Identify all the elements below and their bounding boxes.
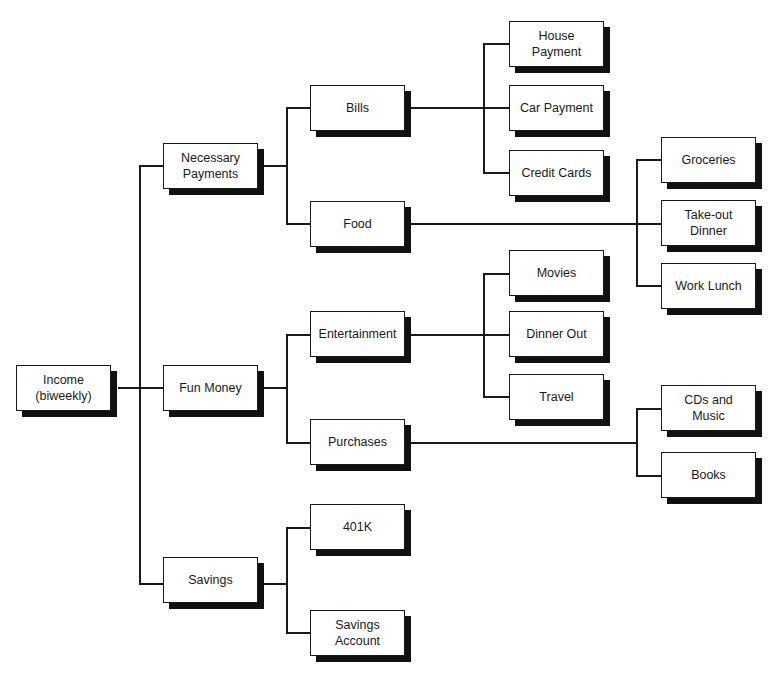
node-purchases: Purchases: [310, 419, 405, 465]
node-work-lunch: Work Lunch: [661, 263, 756, 309]
connector-purchases-out: [411, 442, 637, 444]
connector-entertainment-trunk: [483, 273, 485, 398]
connector-to-purchases: [286, 442, 310, 444]
node-house-payment: House Payment: [509, 21, 604, 67]
connector-bills-trunk: [483, 43, 485, 174]
connector-to-savings-account: [286, 632, 310, 634]
connector-to-bills: [286, 107, 310, 109]
connector-fun-money-trunk: [286, 334, 288, 444]
node-savings-account: Savings Account: [310, 610, 405, 656]
node-necessary-payments: Necessary Payments: [163, 143, 258, 189]
connector-bills-out: [411, 107, 509, 109]
node-takeout-dinner: Take-out Dinner: [661, 200, 756, 246]
connector-to-house-payment: [483, 43, 509, 45]
node-entertainment: Entertainment: [310, 311, 405, 357]
node-travel: Travel: [509, 374, 604, 420]
connector-to-credit-cards: [483, 172, 509, 174]
connector-fun-money-out: [264, 387, 288, 389]
budget-tree-diagram: Income (biweekly) Necessary Payments Fun…: [0, 0, 783, 674]
connector-to-groceries: [636, 159, 661, 161]
connector-entertainment-out: [411, 334, 509, 336]
node-credit-cards: Credit Cards: [509, 150, 604, 196]
node-car-payment: Car Payment: [509, 85, 604, 131]
node-bills: Bills: [310, 85, 405, 131]
node-groceries: Groceries: [661, 137, 756, 183]
connector-to-books: [636, 475, 661, 477]
node-401k: 401K: [310, 504, 405, 550]
node-dinner-out: Dinner Out: [509, 311, 604, 357]
connector-to-entertainment: [286, 334, 310, 336]
connector-savings-trunk: [286, 527, 288, 634]
connector-to-401k: [286, 527, 310, 529]
connector-to-necessary-payments: [139, 165, 164, 167]
connector-trunk-level1: [139, 165, 141, 585]
node-income: Income (biweekly): [16, 365, 111, 411]
connector-purchases-trunk: [636, 408, 638, 477]
connector-to-savings: [139, 583, 164, 585]
node-books: Books: [661, 452, 756, 498]
node-food: Food: [310, 201, 405, 247]
connector-to-work-lunch: [636, 285, 661, 287]
node-cds-music: CDs and Music: [661, 385, 756, 431]
connector-to-cds-music: [636, 408, 661, 410]
node-savings: Savings: [163, 557, 258, 603]
connector-to-fun-money: [139, 387, 164, 389]
connector-to-travel: [483, 396, 509, 398]
connector-necessary-trunk: [286, 107, 288, 225]
connector-food-trunk: [636, 159, 638, 287]
connector-food-out: [411, 223, 661, 225]
node-fun-money: Fun Money: [163, 365, 258, 411]
connector-necessary-out: [264, 165, 288, 167]
connector-savings-out: [264, 583, 288, 585]
connector-income: [118, 387, 141, 389]
connector-to-food: [286, 223, 310, 225]
node-movies: Movies: [509, 250, 604, 296]
connector-to-movies: [483, 273, 509, 275]
